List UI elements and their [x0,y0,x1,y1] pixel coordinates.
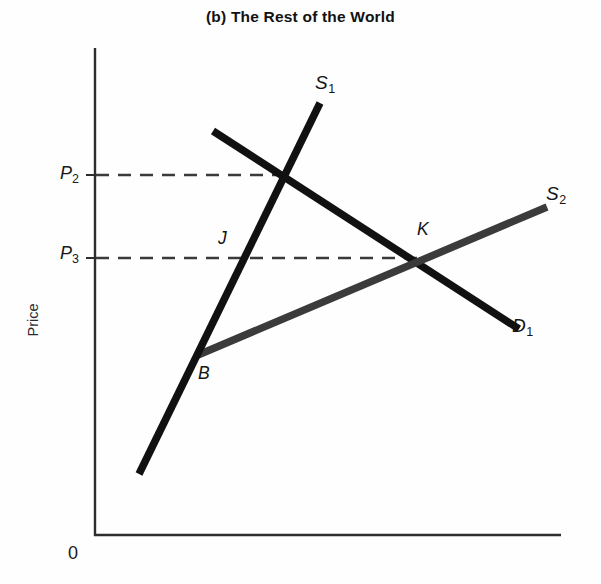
point-label-k: K [417,219,429,240]
supply-curve-s2[interactable] [198,207,547,355]
curve-label-s1-text: S [315,72,328,93]
curve-label-s2: S2 [546,183,566,205]
economics-figure: (b) The Rest of the World Price 0 P2 P3 … [0,0,601,584]
curve-label-d1-text: D [512,315,526,336]
y-tick-label-p3-subscript: 3 [72,252,79,266]
curve-label-d1-subscript: 1 [526,325,533,339]
curve-label-s2-subscript: 2 [559,193,566,207]
y-tick-label-p2: P2 [60,163,79,184]
y-tick-label-p2-text: P [60,163,72,183]
y-tick-label-p2-subscript: 2 [72,172,79,186]
curve-label-s1-subscript: 1 [328,82,335,96]
curve-label-s2-text: S [546,183,559,204]
y-axis-title: Price [25,303,41,336]
origin-label: 0 [68,543,78,564]
y-tick-label-p3: P3 [60,243,79,264]
point-label-j: J [218,228,227,249]
supply-curve-s1[interactable] [139,103,320,474]
curve-label-s1: S1 [315,72,335,94]
point-label-b: B [198,363,210,384]
curve-label-d1: D1 [512,315,533,337]
y-tick-label-p3-text: P [60,243,72,263]
plot-area [0,0,601,584]
